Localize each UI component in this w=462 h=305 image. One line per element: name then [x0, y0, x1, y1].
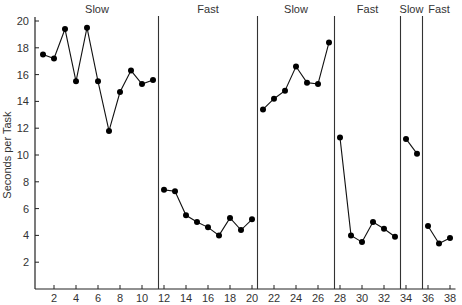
data-point [172, 188, 178, 194]
data-point [51, 56, 57, 62]
phase-labels: SlowFastSlowFastSlowFast [85, 3, 450, 15]
data-point [304, 80, 310, 86]
data-point [370, 219, 376, 225]
x-tick-label: 10 [136, 292, 148, 304]
data-point [293, 64, 299, 70]
data-point [62, 26, 68, 32]
data-point [139, 81, 145, 87]
series-slow-2 [260, 39, 332, 112]
data-point [238, 227, 244, 233]
phase-label: Fast [428, 3, 449, 15]
y-tick-label: 4 [23, 229, 29, 241]
data-point [216, 232, 222, 238]
series-fast-3 [425, 223, 453, 246]
data-series [40, 25, 453, 247]
phase-dividers [159, 16, 423, 289]
y-tick-label: 2 [23, 256, 29, 268]
data-point [315, 81, 321, 87]
x-tick-label: 14 [180, 292, 192, 304]
y-tick-label: 14 [17, 95, 29, 107]
data-point [282, 88, 288, 94]
phase-label: Slow [400, 3, 424, 15]
data-point [161, 187, 167, 193]
y-axis-label: Seconds per Task [1, 111, 13, 199]
y-tick-label: 20 [17, 15, 29, 27]
x-tick-label: 36 [422, 292, 434, 304]
data-point [249, 216, 255, 222]
data-point [348, 232, 354, 238]
data-point [381, 226, 387, 232]
y-tick-label: 16 [17, 69, 29, 81]
series-fast-1 [161, 187, 255, 239]
x-tick-label: 18 [224, 292, 236, 304]
y-tick-label: 10 [17, 149, 29, 161]
data-point [73, 78, 79, 84]
data-point [436, 240, 442, 246]
data-point [40, 52, 46, 58]
x-tick-label: 22 [268, 292, 280, 304]
y-tick-label: 18 [17, 42, 29, 54]
data-point [260, 106, 266, 112]
phase-label: Slow [85, 3, 109, 15]
x-tick-label: 4 [73, 292, 79, 304]
data-point [84, 25, 90, 31]
phase-label: Slow [284, 3, 308, 15]
axes: 2468101214161820246810121416182022242628… [17, 15, 456, 304]
y-tick-label: 12 [17, 122, 29, 134]
data-point [326, 39, 332, 45]
data-point [403, 136, 409, 142]
data-point [271, 96, 277, 102]
x-tick-label: 30 [356, 292, 368, 304]
x-tick-label: 8 [117, 292, 123, 304]
x-tick-label: 2 [51, 292, 57, 304]
y-tick-label: 6 [23, 203, 29, 215]
data-point [106, 128, 112, 134]
data-point [425, 223, 431, 229]
x-tick-label: 32 [378, 292, 390, 304]
data-point [392, 234, 398, 240]
y-tick-label: 8 [23, 176, 29, 188]
x-tick-label: 6 [95, 292, 101, 304]
phase-label: Fast [357, 3, 378, 15]
data-point [337, 135, 343, 141]
data-point [128, 68, 134, 74]
x-tick-label: 20 [246, 292, 258, 304]
x-tick-label: 38 [444, 292, 456, 304]
data-point [117, 89, 123, 95]
chart: 2468101214161820246810121416182022242628… [0, 0, 462, 305]
x-tick-label: 34 [400, 292, 412, 304]
data-point [205, 224, 211, 230]
x-tick-label: 26 [312, 292, 324, 304]
data-point [150, 77, 156, 83]
data-point [95, 78, 101, 84]
series-slow-3 [403, 136, 420, 157]
data-point [227, 215, 233, 221]
data-point [194, 219, 200, 225]
data-point [359, 239, 365, 245]
x-tick-label: 28 [334, 292, 346, 304]
data-point [414, 151, 420, 157]
data-point [447, 235, 453, 241]
series-line [340, 138, 395, 243]
series-fast-2 [337, 135, 398, 246]
x-tick-label: 24 [290, 292, 302, 304]
series-slow-1 [40, 25, 156, 134]
data-point [183, 212, 189, 218]
x-tick-label: 16 [202, 292, 214, 304]
x-tick-label: 12 [158, 292, 170, 304]
phase-label: Fast [197, 3, 218, 15]
